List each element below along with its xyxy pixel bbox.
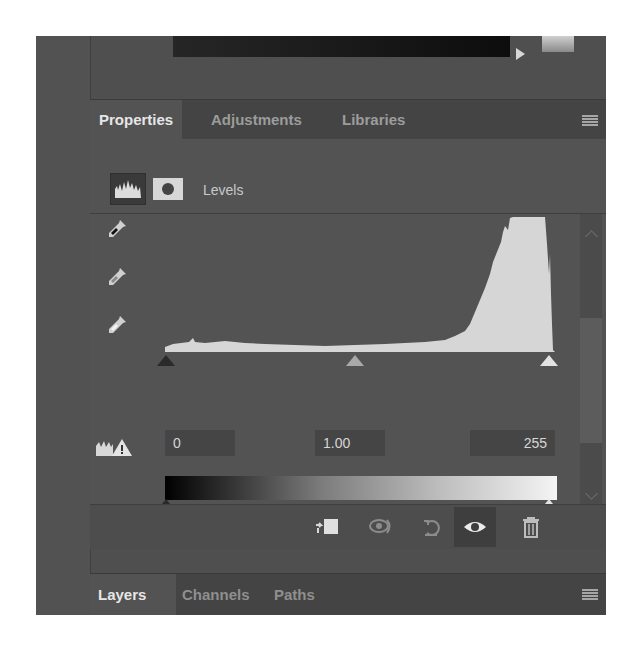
levels-histogram bbox=[165, 214, 555, 354]
input-gamma-field[interactable]: 1.00 bbox=[315, 430, 385, 456]
panel-menu-icon[interactable] bbox=[582, 115, 598, 127]
top-swatch bbox=[542, 36, 574, 52]
panel-tab-bar: Properties Adjustments Libraries bbox=[90, 99, 606, 140]
adjustment-title: Levels bbox=[203, 182, 243, 198]
panel-menu-icon[interactable] bbox=[582, 589, 598, 601]
levels-body: 0 1.00 255 bbox=[90, 214, 606, 504]
input-black-slider[interactable] bbox=[157, 355, 175, 366]
gray-point-eyedropper-icon[interactable] bbox=[106, 266, 128, 288]
tab-adjustments[interactable]: Adjustments bbox=[202, 100, 311, 140]
visibility-button[interactable] bbox=[454, 507, 496, 547]
scrollbar-thumb[interactable] bbox=[580, 318, 602, 443]
properties-panel: Properties Adjustments Libraries Levels bbox=[36, 36, 606, 615]
white-point-eyedropper-icon[interactable] bbox=[106, 314, 128, 336]
properties-footer bbox=[90, 504, 606, 549]
layers-tab-bar: Layers Channels Paths bbox=[90, 573, 606, 615]
auto-levels-warning-icon[interactable] bbox=[94, 436, 134, 458]
delete-trash-icon[interactable] bbox=[518, 515, 544, 539]
input-black-field[interactable]: 0 bbox=[165, 430, 235, 456]
input-gamma-slider[interactable] bbox=[346, 355, 364, 366]
reset-icon[interactable] bbox=[420, 515, 446, 539]
visibility-eye-icon bbox=[462, 517, 488, 537]
tab-properties[interactable]: Properties bbox=[90, 100, 182, 140]
input-white-field[interactable]: 255 bbox=[470, 430, 555, 456]
output-levels-gradient bbox=[165, 476, 557, 500]
tab-channels[interactable]: Channels bbox=[174, 574, 258, 615]
play-arrow-icon[interactable] bbox=[516, 48, 525, 60]
black-point-eyedropper-icon[interactable] bbox=[106, 218, 128, 240]
levels-header: Levels bbox=[90, 139, 606, 214]
top-gradient-bar bbox=[173, 36, 510, 57]
tab-layers[interactable]: Layers bbox=[90, 574, 176, 615]
tab-libraries[interactable]: Libraries bbox=[333, 100, 414, 140]
left-dock-strip bbox=[36, 36, 91, 615]
input-white-slider[interactable] bbox=[540, 355, 558, 366]
clip-to-layer-icon[interactable] bbox=[314, 515, 340, 539]
view-previous-state-icon[interactable] bbox=[368, 515, 394, 539]
levels-histogram-icon[interactable] bbox=[110, 173, 146, 205]
layer-mask-icon[interactable] bbox=[153, 178, 183, 200]
tab-paths[interactable]: Paths bbox=[266, 574, 323, 615]
